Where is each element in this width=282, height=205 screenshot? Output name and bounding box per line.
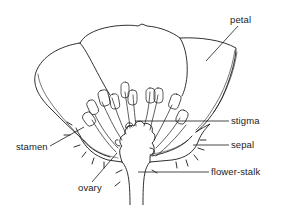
label-flower-stalk: flower-stalk (211, 167, 260, 177)
leader-lines (50, 26, 238, 182)
petal-left (35, 43, 110, 137)
petal-right (180, 38, 237, 132)
stamens (81, 82, 190, 156)
label-petal: petal (230, 15, 251, 25)
pistil (115, 121, 155, 162)
ovary-leader (92, 153, 117, 182)
petal-middle (80, 24, 187, 96)
flower-diagram: petal stigma sepal stamen flower-stalk o… (0, 0, 282, 205)
petal-leader (206, 26, 238, 61)
label-stigma: stigma (231, 116, 260, 126)
label-sepal: sepal (231, 140, 254, 150)
flower-stalk-shape (115, 162, 157, 205)
label-stamen: stamen (16, 142, 48, 152)
label-ovary: ovary (78, 183, 102, 193)
